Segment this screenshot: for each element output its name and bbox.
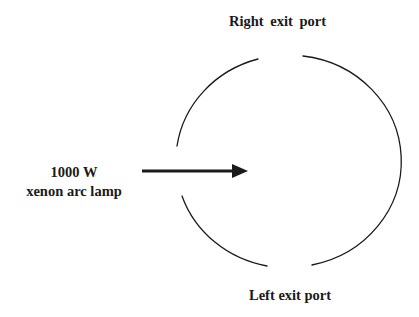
right-exit-port-label: Right exit port: [229, 14, 326, 29]
sphere-arc-lower-left: [182, 196, 267, 266]
sphere-arc-upper-left: [177, 59, 258, 146]
sphere-arc-right: [303, 56, 401, 265]
lamp-power-label: 1000 W: [0, 163, 148, 182]
beam-arrow-icon: [142, 164, 248, 178]
optical-diagram: [0, 0, 419, 317]
lamp-label: 1000 W xenon arc lamp: [0, 163, 148, 201]
left-exit-port-label: Left exit port: [249, 288, 331, 303]
lamp-type-label: xenon arc lamp: [0, 182, 148, 201]
